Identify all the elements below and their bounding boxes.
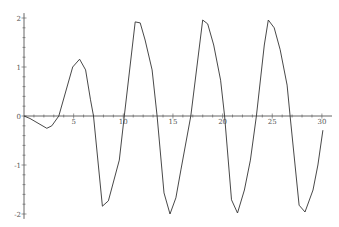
x-tick-label: 30 xyxy=(317,118,326,126)
x-tick-label: 25 xyxy=(268,118,277,126)
plot-area: 51015202530210-1-2 xyxy=(0,0,339,227)
tick-labels: 51015202530210-1-2 xyxy=(14,15,326,219)
x-tick-label: 15 xyxy=(168,118,177,126)
y-tick-label: 0 xyxy=(17,113,21,121)
x-tick-label: 5 xyxy=(71,118,75,126)
y-tick-label: -2 xyxy=(14,211,21,219)
data-line xyxy=(24,20,323,214)
y-tick-label: 2 xyxy=(17,15,21,23)
y-tick-label: 1 xyxy=(17,64,21,72)
line-chart: 51015202530210-1-2 xyxy=(0,0,339,227)
y-tick-label: -1 xyxy=(14,162,21,170)
